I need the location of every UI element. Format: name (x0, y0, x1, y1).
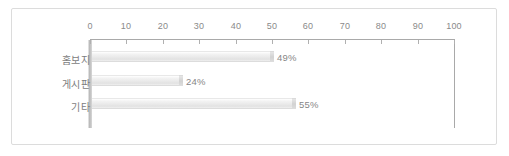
bar-value-label-2: 55% (299, 99, 319, 110)
x-axis-tick (308, 40, 309, 44)
x-axis-tick (236, 40, 237, 44)
x-axis-tick (126, 40, 127, 44)
x-axis-tick-label: 0 (75, 21, 105, 31)
x-axis-tick-label: 20 (148, 21, 178, 31)
x-axis-tick (90, 40, 91, 44)
x-axis-tick-label: 90 (403, 21, 433, 31)
x-axis-tick-label: 50 (257, 21, 287, 31)
x-axis-tick-label: 60 (293, 21, 323, 31)
bar-2 (92, 98, 292, 109)
x-axis-tick-label: 100 (439, 21, 469, 31)
horizontal-bar-chart: 0 10 20 30 40 50 60 70 80 90 100 홈보지 게시판… (0, 0, 509, 156)
x-axis-tick (272, 40, 273, 44)
x-axis-tick (345, 40, 346, 44)
x-axis-tick-label: 80 (366, 21, 396, 31)
x-axis-tick (163, 40, 164, 44)
bar-0 (92, 51, 270, 62)
x-axis-max-boundary-line (454, 39, 455, 128)
chart-screenshot: 0 10 20 30 40 50 60 70 80 90 100 홈보지 게시판… (0, 0, 509, 156)
x-axis-tick (454, 40, 455, 44)
bar-value-label-1: 24% (186, 76, 206, 87)
category-label-2: 기타 (71, 99, 90, 114)
x-axis-tick-label: 30 (184, 21, 214, 31)
x-axis-tick (418, 40, 419, 44)
bar-value-label-0: 49% (277, 52, 297, 63)
x-axis-tick (199, 40, 200, 44)
x-axis-tick-label: 10 (111, 21, 141, 31)
category-label-1: 게시판 (62, 76, 90, 91)
bar-1 (92, 75, 179, 86)
x-axis-tick-label: 70 (330, 21, 360, 31)
category-label-0: 홈보지 (62, 52, 90, 67)
x-axis-tick (381, 40, 382, 44)
x-axis-tick-label: 40 (221, 21, 251, 31)
